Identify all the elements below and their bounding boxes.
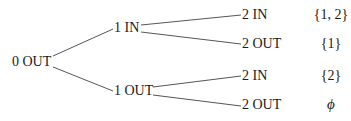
set-label-1: {1}	[311, 37, 351, 51]
node-level2-out-b: 2 OUT	[242, 98, 281, 112]
node-level2-out-a: 2 OUT	[242, 37, 281, 51]
set-label-1-2: {1, 2}	[311, 8, 351, 22]
node-root: 0 OUT	[12, 55, 51, 69]
node-level1-out: 1 OUT	[114, 84, 153, 98]
edge-1out-to-2out	[153, 95, 241, 106]
edge-1out-to-2in	[153, 76, 241, 87]
set-label-2: {2}	[311, 69, 351, 83]
node-level2-in-a: 2 IN	[242, 8, 267, 22]
set-label-empty: ϕ	[311, 97, 351, 111]
node-level1-in: 1 IN	[114, 21, 139, 35]
edge-root-to-1in	[53, 29, 113, 56]
edge-1in-to-2out	[141, 32, 241, 44]
edge-1in-to-2in	[141, 15, 241, 25]
edge-root-to-1out	[53, 67, 113, 91]
node-level2-in-b: 2 IN	[242, 69, 267, 83]
